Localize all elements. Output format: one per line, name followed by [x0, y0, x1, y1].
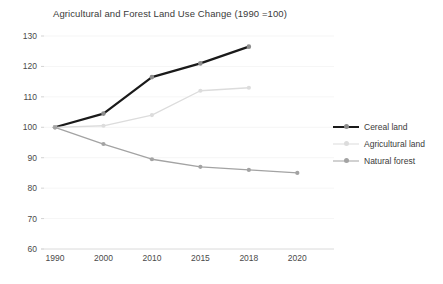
- x-axis-tick-labels: 199020002010201520182020: [46, 253, 308, 263]
- y-axis-tick-label: 120: [23, 61, 37, 71]
- chart-legend: Cereal landAgricultural landNatural fore…: [333, 118, 443, 169]
- legend-key-icon: [333, 155, 359, 167]
- y-axis-tick-labels: 60708090100110120130: [23, 31, 37, 254]
- y-axis-tick-label: 60: [28, 244, 38, 254]
- x-axis-tick-label: 2010: [142, 253, 161, 263]
- series-data-point: [247, 44, 252, 49]
- legend-item-label: Agricultural land: [364, 139, 425, 149]
- series-data-point: [101, 111, 106, 116]
- legend-key-icon: [333, 138, 359, 150]
- x-axis-tick-label: 2015: [191, 253, 210, 263]
- x-axis-tick-label: 1990: [46, 253, 65, 263]
- legend-item-label: Natural forest: [364, 156, 415, 166]
- y-axis-tick-label: 90: [28, 153, 38, 163]
- legend-item[interactable]: Natural forest: [333, 152, 443, 169]
- x-axis-tick-label: 2018: [239, 253, 258, 263]
- series-data-point: [150, 113, 154, 117]
- legend-item[interactable]: Cereal land: [333, 118, 443, 135]
- y-axis-tick-label: 80: [28, 183, 38, 193]
- legend-item-label: Cereal land: [364, 122, 407, 132]
- y-axis-tick-label: 110: [23, 92, 37, 102]
- series-data-point: [198, 61, 203, 66]
- series-data-point: [101, 124, 105, 128]
- legend-item[interactable]: Agricultural land: [333, 135, 443, 152]
- series-data-point: [198, 89, 202, 93]
- y-axis-tick-label: 70: [28, 214, 38, 224]
- gridlines: [44, 36, 334, 249]
- series-data-point: [53, 125, 57, 129]
- series-data-point: [247, 168, 251, 172]
- series-data-point: [101, 142, 105, 146]
- chart-container: Agricultural and Forest Land Use Change …: [0, 0, 443, 284]
- series-data-point: [247, 86, 251, 90]
- x-axis-tick-label: 2020: [288, 253, 307, 263]
- series-line: [55, 127, 297, 173]
- y-axis-tick-label: 100: [23, 122, 37, 132]
- y-axis-tick-label: 130: [23, 31, 37, 41]
- data-series: [53, 44, 300, 175]
- series-data-point: [150, 75, 155, 80]
- legend-key-icon: [333, 121, 359, 133]
- series-data-point: [150, 157, 154, 161]
- series-line: [55, 88, 249, 128]
- series-data-point: [295, 171, 299, 175]
- x-axis-tick-label: 2000: [94, 253, 113, 263]
- series-data-point: [198, 165, 202, 169]
